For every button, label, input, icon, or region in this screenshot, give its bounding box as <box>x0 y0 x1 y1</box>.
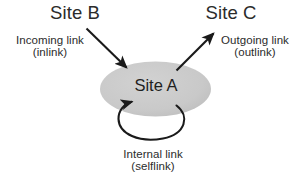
node-label-site-a: Site A <box>100 77 212 95</box>
edge-label-outlink: Outgoing link (outlink) <box>208 34 302 59</box>
edge-label-selflink: Internal link (selflink) <box>98 148 208 173</box>
edge-label-outlink-line1: Outgoing link <box>221 34 289 46</box>
edge-label-selflink-line2: (selflink) <box>98 160 208 172</box>
link-types-diagram: Site B Site C Site A Incoming link (inli… <box>0 0 302 185</box>
edge-label-outlink-line2: (outlink) <box>208 46 302 58</box>
edge-label-inlink-line2: (inlink) <box>2 46 98 58</box>
node-label-site-c: Site C <box>200 3 262 23</box>
edge-label-selflink-line1: Internal link <box>123 148 182 160</box>
edge-label-inlink-line1: Incoming link <box>16 34 84 46</box>
node-label-site-b: Site B <box>44 3 106 23</box>
edge-label-inlink: Incoming link (inlink) <box>2 34 98 59</box>
